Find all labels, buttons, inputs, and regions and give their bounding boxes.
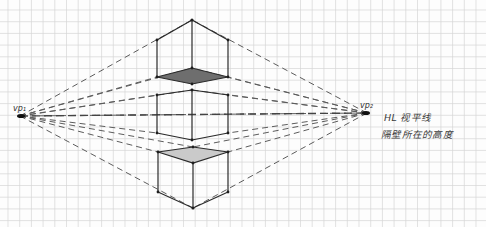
vp1-label: vp₁ [13,104,26,113]
bottom-cube [158,147,228,208]
height-note: 隔壁所在的高度 [381,127,453,141]
top-cube [157,20,228,84]
horizon-note: HL 视平线 [384,110,431,124]
top-cube-bottom-face [157,68,228,84]
vp2-marker [362,111,370,115]
drawing-canvas: vp₁ vp₂ HL 视平线 隔壁所在的高度 [0,0,486,227]
vp1-marker [17,114,25,118]
bottom-cube-top-face [158,147,228,163]
vp2-label: vp₂ [360,101,373,110]
